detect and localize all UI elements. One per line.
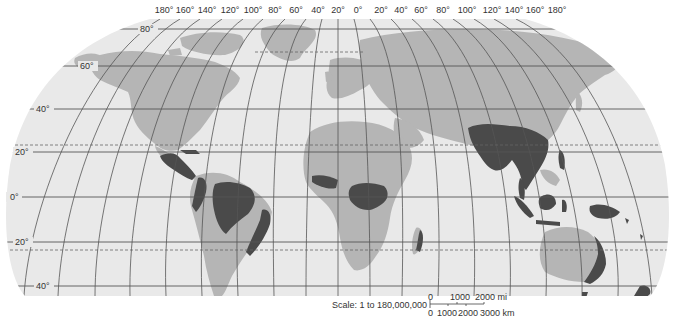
svg-text:1000: 1000 bbox=[450, 292, 470, 302]
svg-text:40°: 40° bbox=[311, 5, 325, 15]
svg-text:60°: 60° bbox=[289, 5, 303, 15]
svg-text:60°: 60° bbox=[80, 61, 94, 71]
svg-text:80°: 80° bbox=[140, 24, 154, 34]
svg-text:20°: 20° bbox=[331, 5, 345, 15]
svg-text:140°: 140° bbox=[505, 5, 524, 15]
world-map: 180° 160° 140° 120° 100° 80° 60° 40° 20°… bbox=[0, 0, 675, 329]
svg-text:180°: 180° bbox=[155, 5, 174, 15]
svg-text:80°: 80° bbox=[436, 5, 450, 15]
svg-text:20°: 20° bbox=[15, 237, 29, 247]
svg-text:180°: 180° bbox=[548, 5, 567, 15]
svg-text:20°: 20° bbox=[374, 5, 388, 15]
svg-text:120°: 120° bbox=[483, 5, 502, 15]
svg-text:0: 0 bbox=[428, 292, 433, 302]
svg-text:40°: 40° bbox=[394, 5, 408, 15]
svg-text:100°: 100° bbox=[244, 5, 263, 15]
longitude-labels: 180° 160° 140° 120° 100° 80° 60° 40° 20°… bbox=[155, 5, 567, 15]
svg-text:40°: 40° bbox=[36, 104, 50, 114]
svg-text:160°: 160° bbox=[526, 5, 545, 15]
svg-text:2000: 2000 bbox=[458, 308, 478, 318]
svg-text:100°: 100° bbox=[458, 5, 477, 15]
svg-text:120°: 120° bbox=[221, 5, 240, 15]
svg-text:160°: 160° bbox=[176, 5, 195, 15]
svg-text:2000 mi: 2000 mi bbox=[475, 292, 507, 302]
svg-text:3000 km: 3000 km bbox=[480, 308, 515, 318]
svg-text:80°: 80° bbox=[268, 5, 282, 15]
svg-text:0: 0 bbox=[428, 308, 433, 318]
svg-text:40°: 40° bbox=[36, 281, 50, 291]
svg-text:60°: 60° bbox=[414, 5, 428, 15]
svg-text:140°: 140° bbox=[198, 5, 217, 15]
svg-text:0°: 0° bbox=[10, 192, 19, 202]
svg-text:20°: 20° bbox=[15, 147, 29, 157]
svg-text:1000: 1000 bbox=[437, 308, 457, 318]
scale-text: Scale: 1 to 180,000,000 bbox=[332, 300, 427, 310]
svg-text:0°: 0° bbox=[354, 5, 363, 15]
